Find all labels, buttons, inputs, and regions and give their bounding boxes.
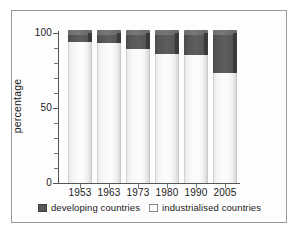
bar-segment-industrialised-1973 bbox=[126, 49, 150, 183]
plot-area: percentage 100 50 0 bbox=[0, 0, 299, 235]
legend-entry-industrialised: industrialised countries bbox=[149, 202, 261, 213]
y-tick-minor-20 bbox=[54, 153, 58, 154]
y-tick-minor-30 bbox=[54, 138, 58, 139]
y-tick-label-0: 0 bbox=[18, 177, 52, 188]
bar-side-face-1973 bbox=[146, 33, 150, 49]
y-tick-minor-80 bbox=[54, 63, 58, 64]
bar-segment-industrialised-1963 bbox=[97, 43, 121, 183]
y-tick-label-50-wrap: 50 bbox=[14, 102, 52, 114]
bar-side-face-1963 bbox=[117, 33, 121, 43]
y-tick-minor-10 bbox=[54, 168, 58, 169]
y-tick-label-50: 50 bbox=[18, 102, 52, 113]
chart-figure: percentage 100 50 0 bbox=[0, 0, 299, 235]
bar-segment-industrialised-1980 bbox=[155, 54, 179, 183]
y-tick-label-0-wrap: 0 bbox=[14, 177, 52, 189]
legend-label-industrialised: industrialised countries bbox=[162, 202, 261, 213]
bar-segment-industrialised-1990 bbox=[184, 55, 208, 183]
y-tick-major-0 bbox=[53, 183, 58, 184]
y-tick-minor-60 bbox=[54, 93, 58, 94]
x-tick-label-2005: 2005 bbox=[205, 187, 245, 198]
light-square-icon bbox=[149, 204, 158, 212]
y-tick-label-100-wrap: 100 bbox=[14, 27, 52, 39]
y-tick-major-50 bbox=[53, 108, 58, 109]
x-axis-line bbox=[58, 183, 240, 184]
y-tick-major-100 bbox=[53, 33, 58, 34]
y-tick-minor-70 bbox=[54, 78, 58, 79]
y-tick-minor-90 bbox=[54, 48, 58, 49]
y-tick-minor-40 bbox=[54, 123, 58, 124]
legend-entry-developing: developing countries bbox=[38, 202, 140, 213]
legend-label-developing: developing countries bbox=[51, 202, 140, 213]
chart-legend: developing countries industrialised coun… bbox=[0, 202, 299, 213]
bar-side-face-1990 bbox=[204, 33, 208, 55]
bar-side-face-1953 bbox=[88, 33, 92, 42]
y-axis-line bbox=[58, 31, 59, 184]
bar-segment-industrialised-1953 bbox=[68, 42, 92, 183]
dark-square-icon bbox=[38, 204, 47, 212]
bar-side-face-2005 bbox=[233, 33, 237, 73]
bar-segment-industrialised-2005 bbox=[213, 73, 237, 183]
bar-side-face-1980 bbox=[175, 33, 179, 54]
y-tick-label-100: 100 bbox=[18, 27, 52, 38]
